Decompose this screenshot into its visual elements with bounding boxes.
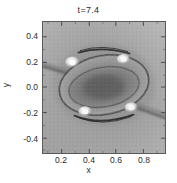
y-tick-label: 0.2 [8,57,38,67]
y-tick-label: 0.4 [8,31,38,41]
y-tick-label: -0.2 [8,108,38,118]
density-plot-canvas [43,22,165,153]
x-tick-label: 0.4 [76,155,102,165]
figure-panel: t=7.4 [0,0,177,183]
y-tick-label: -0.4 [8,134,38,144]
x-tick-label: 0.8 [131,155,157,165]
plot-area [42,21,166,154]
plot-title: t=7.4 [0,5,177,15]
y-tick-label: 0.0 [8,82,38,92]
y-axis-title: y [1,83,11,87]
x-axis-title: x [0,165,177,175]
x-tick-label: 0.6 [103,155,129,165]
x-tick-label: 0.2 [48,155,74,165]
